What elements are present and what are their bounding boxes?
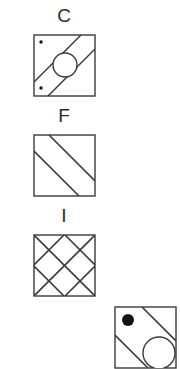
figure-panel-f: F: [33, 106, 95, 201]
circle-shape: [53, 53, 77, 77]
panel-figure-partial: [114, 306, 177, 369]
panel-label-c: C: [33, 6, 95, 25]
panel-figure-f: [33, 134, 96, 197]
panel-figure-i: [33, 234, 96, 297]
figure-panel-i: I: [33, 206, 95, 301]
dot-marker: [39, 86, 42, 89]
panel-label-f: F: [33, 106, 95, 125]
figure-panel-c: C: [33, 6, 95, 101]
panel-border-f: [34, 135, 95, 196]
circle-shape: [143, 337, 175, 369]
panel-figure-c: [33, 34, 96, 97]
dot-marker: [122, 314, 134, 326]
dot-marker: [39, 40, 42, 43]
panel-label-i: I: [33, 206, 95, 225]
figure-panel-partial: [114, 306, 180, 364]
